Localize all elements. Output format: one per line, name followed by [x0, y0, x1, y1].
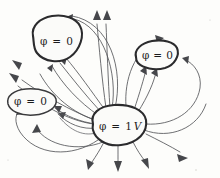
- arrowhead-into-topleft-b: [47, 64, 53, 72]
- fieldline-group-right-wrap: [144, 60, 206, 134]
- label-right-conductor: φ=0: [142, 49, 173, 61]
- arrowhead-escape-lower-right: [177, 154, 188, 162]
- figure-electric-field-diagram: φ=0 φ=0 φ=0 φ=1V: [0, 0, 220, 178]
- arrowhead-escape-bottom-center: [114, 161, 122, 172]
- arrowhead-into-right-side: [182, 56, 189, 64]
- fieldline-group-bottom-left-sweep: [16, 110, 103, 152]
- fieldline-escape-lower-right: [146, 134, 180, 152]
- label-left-middle-conductor: φ=0: [14, 95, 47, 107]
- field-diagram-canvas: φ=0 φ=0 φ=0 φ=1V: [0, 0, 220, 178]
- arrowhead-escape-left-upper: [9, 73, 19, 83]
- label-top-left-conductor: φ=0: [40, 35, 73, 47]
- arrowhead-into-leftmiddle-bottom2: [32, 124, 41, 133]
- arrowhead-escape-up-left: [93, 10, 101, 20]
- fieldline-group-escaping-top: [97, 24, 110, 108]
- arrowhead-escape-up-right: [103, 10, 111, 20]
- arrowhead-escape-bottom-right: [141, 158, 149, 169]
- arrowhead-escape-left-lower: [12, 60, 22, 70]
